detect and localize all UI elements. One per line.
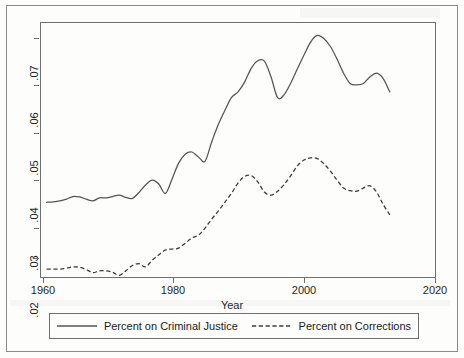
series-line-criminal-justice [47, 35, 390, 202]
y-tick-label: .05 [28, 155, 40, 181]
y-tick-mark [34, 258, 39, 259]
y-tick-label: .06 [28, 107, 40, 133]
chart-plot-svg [40, 22, 436, 278]
plot-area [40, 22, 436, 278]
figure-canvas: .07 .06 .05 .04 .03 .02 1960 1980 2000 2… [0, 0, 464, 358]
x-axis-title: Year [0, 299, 464, 311]
y-tick-label: .03 [28, 250, 40, 276]
series-line-corrections [47, 158, 390, 276]
y-tick-mark [34, 38, 39, 39]
x-tick-label: 2000 [292, 284, 316, 296]
y-axis-labels: .07 .06 .05 .04 .03 .02 [8, 22, 34, 278]
x-tick-mark [43, 278, 44, 283]
legend-label-criminal-justice: Percent on Criminal Justice [104, 320, 238, 332]
y-tick-mark [34, 133, 39, 134]
dashed-line-icon [252, 322, 292, 330]
chart-legend: Percent on Criminal Justice Percent on C… [49, 313, 419, 339]
legend-label-corrections: Percent on Corrections [299, 320, 412, 332]
x-tick-label: 1960 [31, 284, 55, 296]
y-tick-mark [34, 228, 39, 229]
x-tick-mark [435, 278, 436, 283]
x-tick-mark [173, 278, 174, 283]
legend-entry-criminal-justice: Percent on Criminal Justice [57, 320, 238, 332]
y-tick-mark [34, 85, 39, 86]
y-tick-label: .04 [28, 202, 40, 228]
y-tick-label: .07 [28, 60, 40, 86]
y-tick-mark [34, 180, 39, 181]
legend-entry-corrections: Percent on Corrections [252, 320, 412, 332]
x-tick-mark [304, 278, 305, 283]
x-tick-label: 2020 [423, 284, 447, 296]
solid-line-icon [57, 322, 97, 330]
x-tick-label: 1980 [161, 284, 185, 296]
